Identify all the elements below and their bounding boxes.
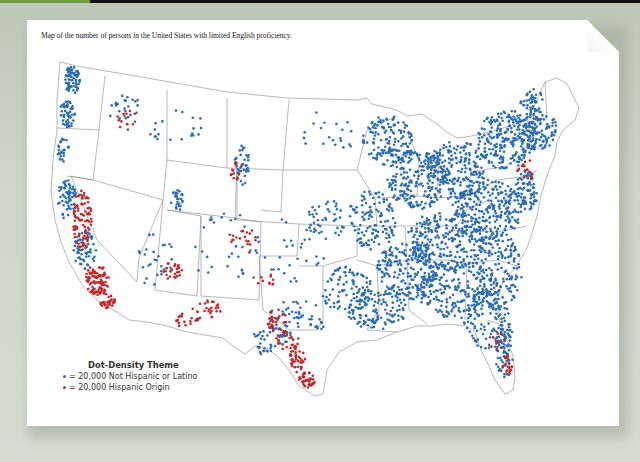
map-legend: Dot-Density Theme = 20,000 Not Hispanic … <box>63 360 197 393</box>
red-dot-icon <box>63 386 66 389</box>
dots-not-hispanic <box>57 66 558 379</box>
legend-label-not-hispanic: = 20,000 Not Hispanic or Latino <box>69 371 197 382</box>
legend-label-hispanic: = 20,000 Hispanic Origin <box>69 382 170 393</box>
legend-title: Dot-Density Theme <box>88 360 197 370</box>
legend-item-not-hispanic: = 20,000 Not Hispanic or Latino <box>63 371 197 382</box>
blue-dot-icon <box>63 375 66 378</box>
legend-item-hispanic: = 20,000 Hispanic Origin <box>63 382 197 393</box>
